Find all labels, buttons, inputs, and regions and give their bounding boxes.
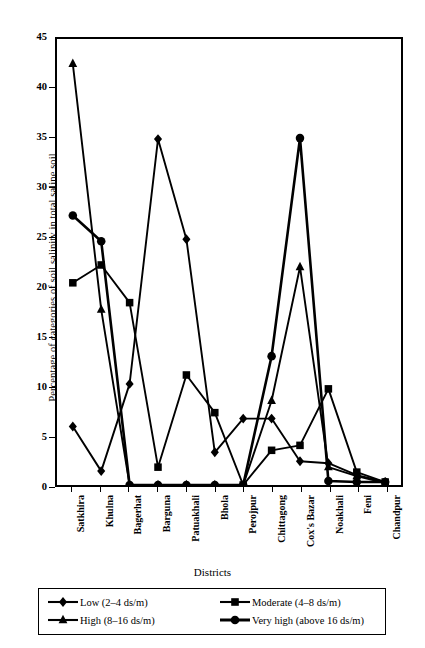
x-axis-tick-mark <box>215 487 216 492</box>
circle-marker-icon <box>219 613 251 627</box>
x-axis-title: Districts <box>0 566 425 578</box>
x-axis-tick-label: Patuakhali <box>190 495 201 542</box>
data-point-marker <box>69 211 78 220</box>
series-line <box>73 139 385 482</box>
y-axis-tick-label: 15 <box>17 332 47 343</box>
x-axis-tick-label: Bhola <box>219 495 230 520</box>
y-axis-tick-label: 30 <box>17 182 47 193</box>
data-point-marker <box>154 134 162 144</box>
legend-item-moderate: Moderate (4–8 ds/m) <box>219 595 379 609</box>
square-marker-icon <box>219 595 251 609</box>
x-axis-tick-label: Feni <box>362 495 373 514</box>
data-point-marker <box>296 262 305 270</box>
x-axis-tick-label: Noakhali <box>334 495 345 534</box>
data-point-marker <box>154 463 162 471</box>
x-axis-tick-mark <box>358 487 359 492</box>
x-axis-tick-label: Khulna <box>104 495 115 527</box>
legend-row: High (8–16 ds/m) Very high (above 16 ds/… <box>47 611 379 629</box>
x-axis-tick-label: Chandpur <box>391 495 402 539</box>
x-axis-tick-mark <box>330 487 331 492</box>
data-point-marker <box>97 304 106 312</box>
x-axis-tick-mark <box>243 487 244 492</box>
legend-label: High (8–16 ds/m) <box>80 615 155 626</box>
data-point-marker <box>211 409 219 417</box>
data-point-marker <box>126 299 134 307</box>
y-axis-tick-label: 20 <box>17 282 47 293</box>
x-axis-tick-mark <box>186 487 187 492</box>
data-point-marker <box>296 442 304 450</box>
data-point-marker <box>154 481 163 485</box>
x-axis-tick-mark <box>301 487 302 492</box>
data-point-marker <box>267 396 276 404</box>
x-axis-tick-label: Cox's Bazar <box>305 495 316 547</box>
triangle-marker-icon <box>47 613 79 627</box>
y-axis-tick-label: 40 <box>17 82 47 93</box>
legend-item-high: High (8–16 ds/m) <box>47 613 219 627</box>
x-axis-tick-label: Chittagong <box>276 495 287 543</box>
y-axis-tick-label: 35 <box>17 132 47 143</box>
legend-label: Moderate (4–8 ds/m) <box>252 597 341 608</box>
data-point-marker <box>267 352 276 361</box>
data-point-marker <box>69 279 77 287</box>
legend-row: Low (2–4 ds/m) Moderate (4–8 ds/m) <box>47 593 379 611</box>
y-axis-tick-label: 25 <box>17 232 47 243</box>
x-axis-tick-mark <box>128 487 129 492</box>
y-axis-tick-label: 10 <box>17 382 47 393</box>
x-axis-tick-label: Barguna <box>161 495 172 532</box>
x-axis-tick-mark <box>387 487 388 492</box>
y-axis-tick-label: 45 <box>17 32 47 43</box>
data-point-marker <box>211 481 220 485</box>
x-axis-tick-mark <box>71 487 72 492</box>
y-axis-tick-label: 5 <box>17 432 47 443</box>
data-series <box>69 134 389 485</box>
legend-item-low: Low (2–4 ds/m) <box>47 595 219 609</box>
data-point-marker <box>183 371 191 379</box>
legend-item-very-high: Very high (above 16 ds/m) <box>219 613 379 627</box>
data-point-marker <box>182 234 190 244</box>
data-point-marker <box>125 481 134 485</box>
plot-area <box>55 37 403 487</box>
x-axis-tick-label: Satkhira <box>75 495 86 532</box>
x-axis-tick-mark <box>157 487 158 492</box>
legend-label: Very high (above 16 ds/m) <box>252 615 364 626</box>
data-point-marker <box>182 481 191 485</box>
data-point-marker <box>324 477 333 485</box>
x-axis-tick-mark <box>100 487 101 492</box>
data-series <box>69 134 390 485</box>
series-line <box>73 138 385 485</box>
series-line <box>73 64 385 485</box>
chart-legend: Low (2–4 ds/m) Moderate (4–8 ds/m) High … <box>38 588 386 635</box>
chart-figure: Percentage of categories of soil salinit… <box>0 0 425 648</box>
diamond-marker-icon <box>47 595 79 609</box>
data-point-marker <box>268 447 276 455</box>
data-point-marker <box>97 237 106 246</box>
x-axis-tick-label: Perojpur <box>247 495 258 534</box>
x-axis-tick-mark <box>272 487 273 492</box>
data-point-marker <box>68 59 77 67</box>
y-axis-tick-label: 0 <box>17 482 47 493</box>
y-axis-tick-mark <box>49 487 55 488</box>
data-point-marker <box>296 134 305 143</box>
series-canvas <box>57 39 401 485</box>
data-point-marker <box>325 385 333 393</box>
legend-label: Low (2–4 ds/m) <box>80 597 148 608</box>
data-point-marker <box>126 379 134 389</box>
x-axis-tick-label: Bagerhat <box>132 495 143 534</box>
series-line <box>73 265 385 485</box>
